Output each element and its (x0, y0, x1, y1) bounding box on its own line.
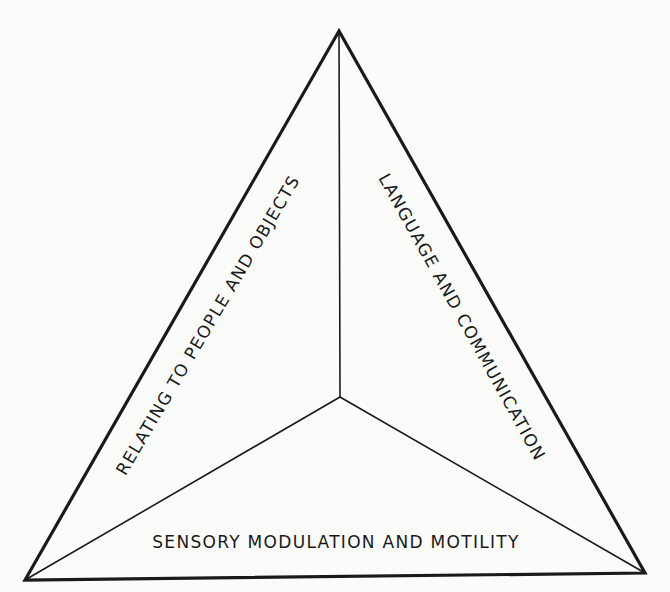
left-side-label: RELATING TO PEOPLE AND OBJECTS (112, 171, 304, 478)
scanned-page: pressed. Most of these points of transfe… (0, 0, 670, 592)
outer-triangle (25, 31, 645, 580)
spoke-to-bottom-left (25, 397, 340, 580)
triangle-diagram: RELATING TO PEOPLE AND OBJECTS LANGUAGE … (0, 0, 670, 592)
bottom-label: SENSORY MODULATION AND MOTILITY (152, 532, 519, 552)
spoke-to-apex (339, 31, 340, 397)
inner-spokes (25, 31, 645, 580)
right-side-label: LANGUAGE AND COMMUNICATION (375, 170, 550, 464)
